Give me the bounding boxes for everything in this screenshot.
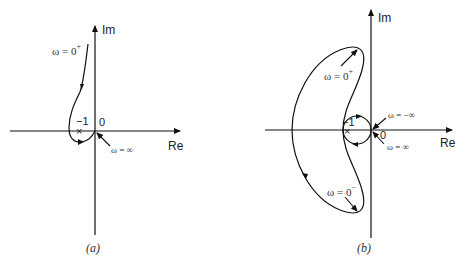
origin-label-b: 0 <box>380 129 386 141</box>
real-axis-label-b: Re <box>440 136 456 150</box>
direction-arrow-icon <box>78 139 84 145</box>
caption-b: (b) <box>357 241 371 255</box>
omega-infinity-label-b: ω = ∞ <box>387 142 409 152</box>
omega-neg-infinity-label-b: ω = −∞ <box>388 110 415 120</box>
omega-zero-minus-pointer-b <box>345 197 357 211</box>
nyquist-diagrams: Im Re 0 −1 × ω = 0+ ω = ∞ (a) Im Re 0 −1… <box>0 0 464 265</box>
omega-zero-plus-label-a: ω = 0+ <box>52 42 81 57</box>
imag-axis-label-b: Im <box>378 11 391 25</box>
imag-axis-label-a: Im <box>102 23 115 37</box>
omega-infinity-label-a: ω = ∞ <box>111 145 133 155</box>
nyquist-lower-lobe-b <box>292 130 364 213</box>
real-axis-label-a: Re <box>168 139 184 153</box>
omega-infinity-pointer-a <box>97 133 110 146</box>
omega-zero-plus-label-b: ω = 0+ <box>324 67 353 82</box>
origin-label-a: 0 <box>99 116 105 128</box>
critical-point-x-a: × <box>76 125 82 137</box>
omega-zero-minus-label-b: ω = 0− <box>327 183 356 198</box>
omega-zero-plus-pointer-b <box>341 50 357 66</box>
figure-a: Im Re 0 −1 × ω = 0+ ω = ∞ (a) <box>10 23 184 255</box>
omega-neg-infinity-pointer-b <box>373 118 386 129</box>
critical-point-x-b: × <box>344 125 350 137</box>
figure-b: Im Re 0 −1 × ω = 0+ ω = −∞ ω = ∞ ω = 0− … <box>265 10 456 255</box>
caption-a: (a) <box>86 241 100 255</box>
direction-arrow-icon <box>352 142 358 147</box>
